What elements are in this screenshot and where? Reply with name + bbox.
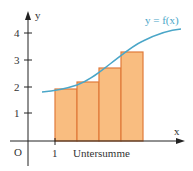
x-axis-arrow-icon — [176, 138, 185, 144]
lower-sum-chart: y x O 1 4 3 2 1 y = f(x) Untersumme — [0, 0, 193, 171]
bar-3 — [99, 68, 121, 141]
y-axis-arrow-icon — [25, 11, 31, 20]
y-tick-1-label: 1 — [14, 107, 20, 119]
curve-label: y = f(x) — [145, 14, 179, 27]
ticks — [24, 33, 55, 145]
y-axis-label: y — [35, 9, 41, 21]
y-tick-2-label: 2 — [14, 81, 20, 93]
y-tick-4-label: 4 — [14, 27, 20, 39]
bar-4 — [121, 52, 143, 141]
y-tick-3-label: 3 — [14, 54, 20, 66]
bars — [55, 52, 143, 141]
origin-label: O — [14, 146, 22, 158]
x-tick-1-label: 1 — [52, 147, 58, 159]
caption-untersumme: Untersumme — [73, 147, 130, 159]
bar-1 — [55, 89, 77, 141]
bar-2 — [77, 82, 99, 141]
x-axis-label: x — [174, 125, 180, 137]
chart-container: y x O 1 4 3 2 1 y = f(x) Untersumme — [0, 0, 193, 171]
